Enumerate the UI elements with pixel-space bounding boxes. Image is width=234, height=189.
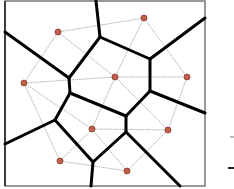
voronoi-edge (55, 93, 70, 120)
voronoi-edge (150, 91, 205, 113)
voronoi-diagram (0, 0, 234, 189)
side-tick-mark (230, 136, 234, 138)
voronoi-edge (69, 37, 100, 78)
voronoi-edge (150, 18, 205, 59)
site-point (124, 168, 130, 174)
voronoi-edge (91, 162, 93, 186)
voronoi-edge (96, 1, 100, 37)
site-point (89, 126, 95, 132)
voronoi-edge (69, 78, 70, 93)
voronoi-edge (5, 32, 69, 78)
delaunay-edge (58, 18, 144, 32)
voronoi-edge (100, 37, 150, 59)
delaunay-edge (115, 18, 144, 77)
frame-border (5, 1, 205, 186)
site-point (57, 158, 63, 164)
site-point (55, 29, 61, 35)
site-point (141, 15, 147, 21)
side-tick-mark (228, 167, 234, 169)
voronoi-edge (126, 91, 150, 116)
voronoi-edges (5, 1, 205, 186)
site-point (184, 74, 190, 80)
delaunay-edge (127, 130, 168, 171)
voronoi-edge (70, 93, 126, 116)
delaunay-edge (92, 129, 168, 130)
site-point (21, 80, 27, 86)
site-point (165, 127, 171, 133)
voronoi-edge (5, 120, 55, 144)
delaunay-edge (115, 77, 168, 130)
site-point (112, 74, 118, 80)
voronoi-edge (126, 132, 180, 186)
